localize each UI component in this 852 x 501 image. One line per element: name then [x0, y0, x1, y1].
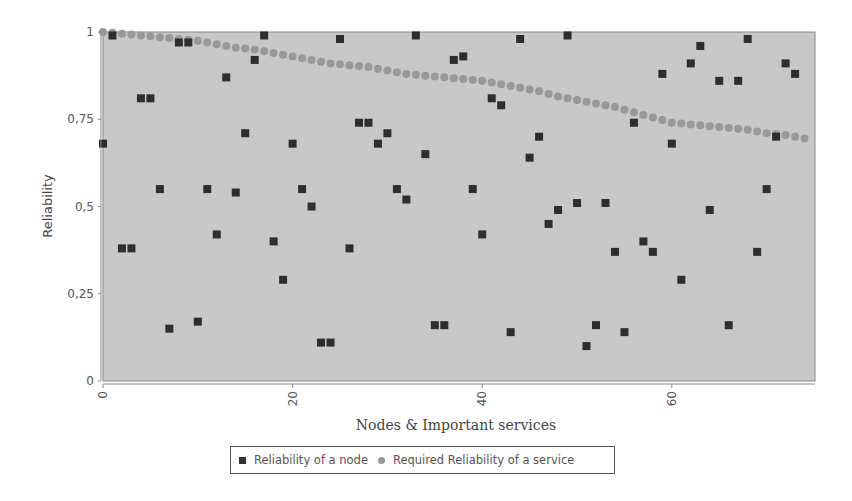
- service-point: [364, 63, 372, 71]
- service-point: [289, 52, 297, 60]
- node-point: [535, 133, 543, 141]
- node-point: [355, 119, 363, 127]
- legend-item-service: Required Reliability of a service: [393, 453, 574, 467]
- node-point: [658, 70, 666, 78]
- service-point: [658, 116, 666, 124]
- service-point: [393, 68, 401, 76]
- service-point: [469, 76, 477, 84]
- node-point: [753, 248, 761, 256]
- node-point: [469, 185, 477, 193]
- y-axis-label: Reliability: [40, 174, 55, 238]
- node-point: [564, 31, 572, 39]
- service-point: [535, 87, 543, 95]
- node-point: [497, 101, 505, 109]
- service-point: [317, 58, 325, 66]
- node-point: [232, 189, 240, 197]
- node-point: [156, 185, 164, 193]
- node-point: [241, 129, 249, 137]
- circle-marker-icon: [378, 457, 385, 464]
- node-point: [620, 328, 628, 336]
- service-point: [137, 31, 145, 39]
- node-point: [592, 321, 600, 329]
- service-point: [156, 33, 164, 41]
- node-point: [706, 206, 714, 214]
- service-point: [270, 49, 278, 57]
- node-point: [440, 321, 448, 329]
- node-point: [516, 35, 524, 43]
- node-point: [611, 248, 619, 256]
- node-point: [639, 237, 647, 245]
- service-point: [545, 90, 553, 98]
- node-point: [763, 185, 771, 193]
- node-point: [194, 318, 202, 326]
- service-point: [696, 121, 704, 129]
- service-point: [715, 123, 723, 131]
- node-point: [383, 129, 391, 137]
- node-point: [601, 199, 609, 207]
- service-point: [431, 72, 439, 80]
- service-point: [744, 126, 752, 134]
- square-marker-icon: [239, 457, 246, 464]
- node-point: [715, 77, 723, 85]
- node-point: [478, 230, 486, 238]
- node-point: [118, 244, 126, 252]
- node-point: [630, 119, 638, 127]
- service-point: [592, 100, 600, 108]
- service-point: [488, 79, 496, 87]
- service-point: [421, 72, 429, 80]
- service-point: [554, 93, 562, 101]
- node-point: [184, 38, 192, 46]
- service-point: [601, 101, 609, 109]
- x-tick-label: 20: [286, 391, 300, 406]
- x-tick-label: 40: [475, 391, 489, 406]
- node-point: [573, 199, 581, 207]
- x-axis-label: Nodes & Important services: [356, 417, 556, 433]
- service-point: [507, 82, 515, 90]
- service-point: [791, 133, 799, 141]
- service-point: [345, 61, 353, 69]
- service-point: [497, 80, 505, 88]
- node-point: [393, 185, 401, 193]
- service-point: [450, 74, 458, 82]
- node-point: [374, 140, 382, 148]
- node-point: [345, 244, 353, 252]
- service-point: [478, 77, 486, 85]
- node-point: [289, 140, 297, 148]
- node-point: [696, 42, 704, 50]
- y-tick-label: 0,25: [67, 287, 94, 301]
- service-point: [298, 54, 306, 62]
- node-point: [450, 56, 458, 64]
- service-point: [620, 106, 628, 114]
- service-point: [611, 103, 619, 111]
- service-point: [355, 62, 363, 70]
- service-point: [734, 125, 742, 133]
- node-point: [554, 206, 562, 214]
- x-tick-label: 60: [665, 391, 679, 406]
- node-point: [175, 38, 183, 46]
- service-point: [412, 71, 420, 79]
- service-point: [668, 119, 676, 127]
- node-point: [402, 196, 410, 204]
- service-point: [213, 40, 221, 48]
- service-point: [440, 73, 448, 81]
- node-point: [137, 94, 145, 102]
- node-point: [327, 339, 335, 347]
- service-point: [516, 84, 524, 92]
- service-point: [327, 59, 335, 67]
- node-point: [431, 321, 439, 329]
- node-point: [526, 154, 534, 162]
- service-point: [232, 44, 240, 52]
- y-tick-label: 0: [86, 374, 94, 388]
- service-point: [801, 134, 809, 142]
- node-point: [488, 94, 496, 102]
- service-point: [127, 31, 135, 39]
- service-point: [279, 51, 287, 59]
- chart-legend: Reliability of a node Required Reliabili…: [230, 446, 615, 474]
- service-point: [308, 56, 316, 64]
- node-point: [677, 276, 685, 284]
- service-point: [677, 120, 685, 128]
- node-point: [165, 325, 173, 333]
- scatter-chart: 00,250,50,751 0204060 Reliability Nodes …: [0, 0, 852, 501]
- service-point: [336, 60, 344, 68]
- service-point: [118, 30, 126, 38]
